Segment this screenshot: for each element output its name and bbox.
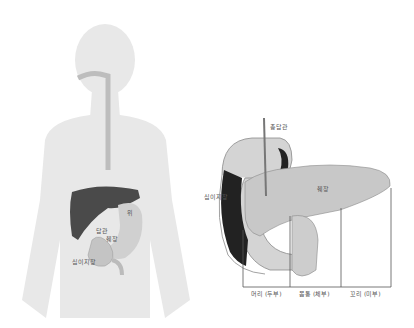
label-common-bile-duct: 총담관 bbox=[270, 124, 288, 130]
label-duodenum: 십이지장 bbox=[204, 194, 228, 200]
body-silhouette bbox=[22, 24, 190, 318]
section-body-label: 몸통 (체부) bbox=[299, 291, 330, 297]
section-head-label: 머리 (두부) bbox=[251, 291, 282, 297]
pancreas-figure bbox=[219, 118, 391, 287]
anatomy-diagram bbox=[0, 0, 414, 328]
label-pancreas-small: 췌장 bbox=[106, 236, 118, 242]
label-stomach: 위 bbox=[127, 210, 133, 216]
section-tail-label: 꼬리 (미부) bbox=[350, 291, 381, 297]
label-pancreas: 췌장 bbox=[317, 186, 329, 192]
label-duodenum-small: 십이지장 bbox=[72, 259, 96, 265]
label-bile-duct: 담관 bbox=[96, 228, 108, 234]
